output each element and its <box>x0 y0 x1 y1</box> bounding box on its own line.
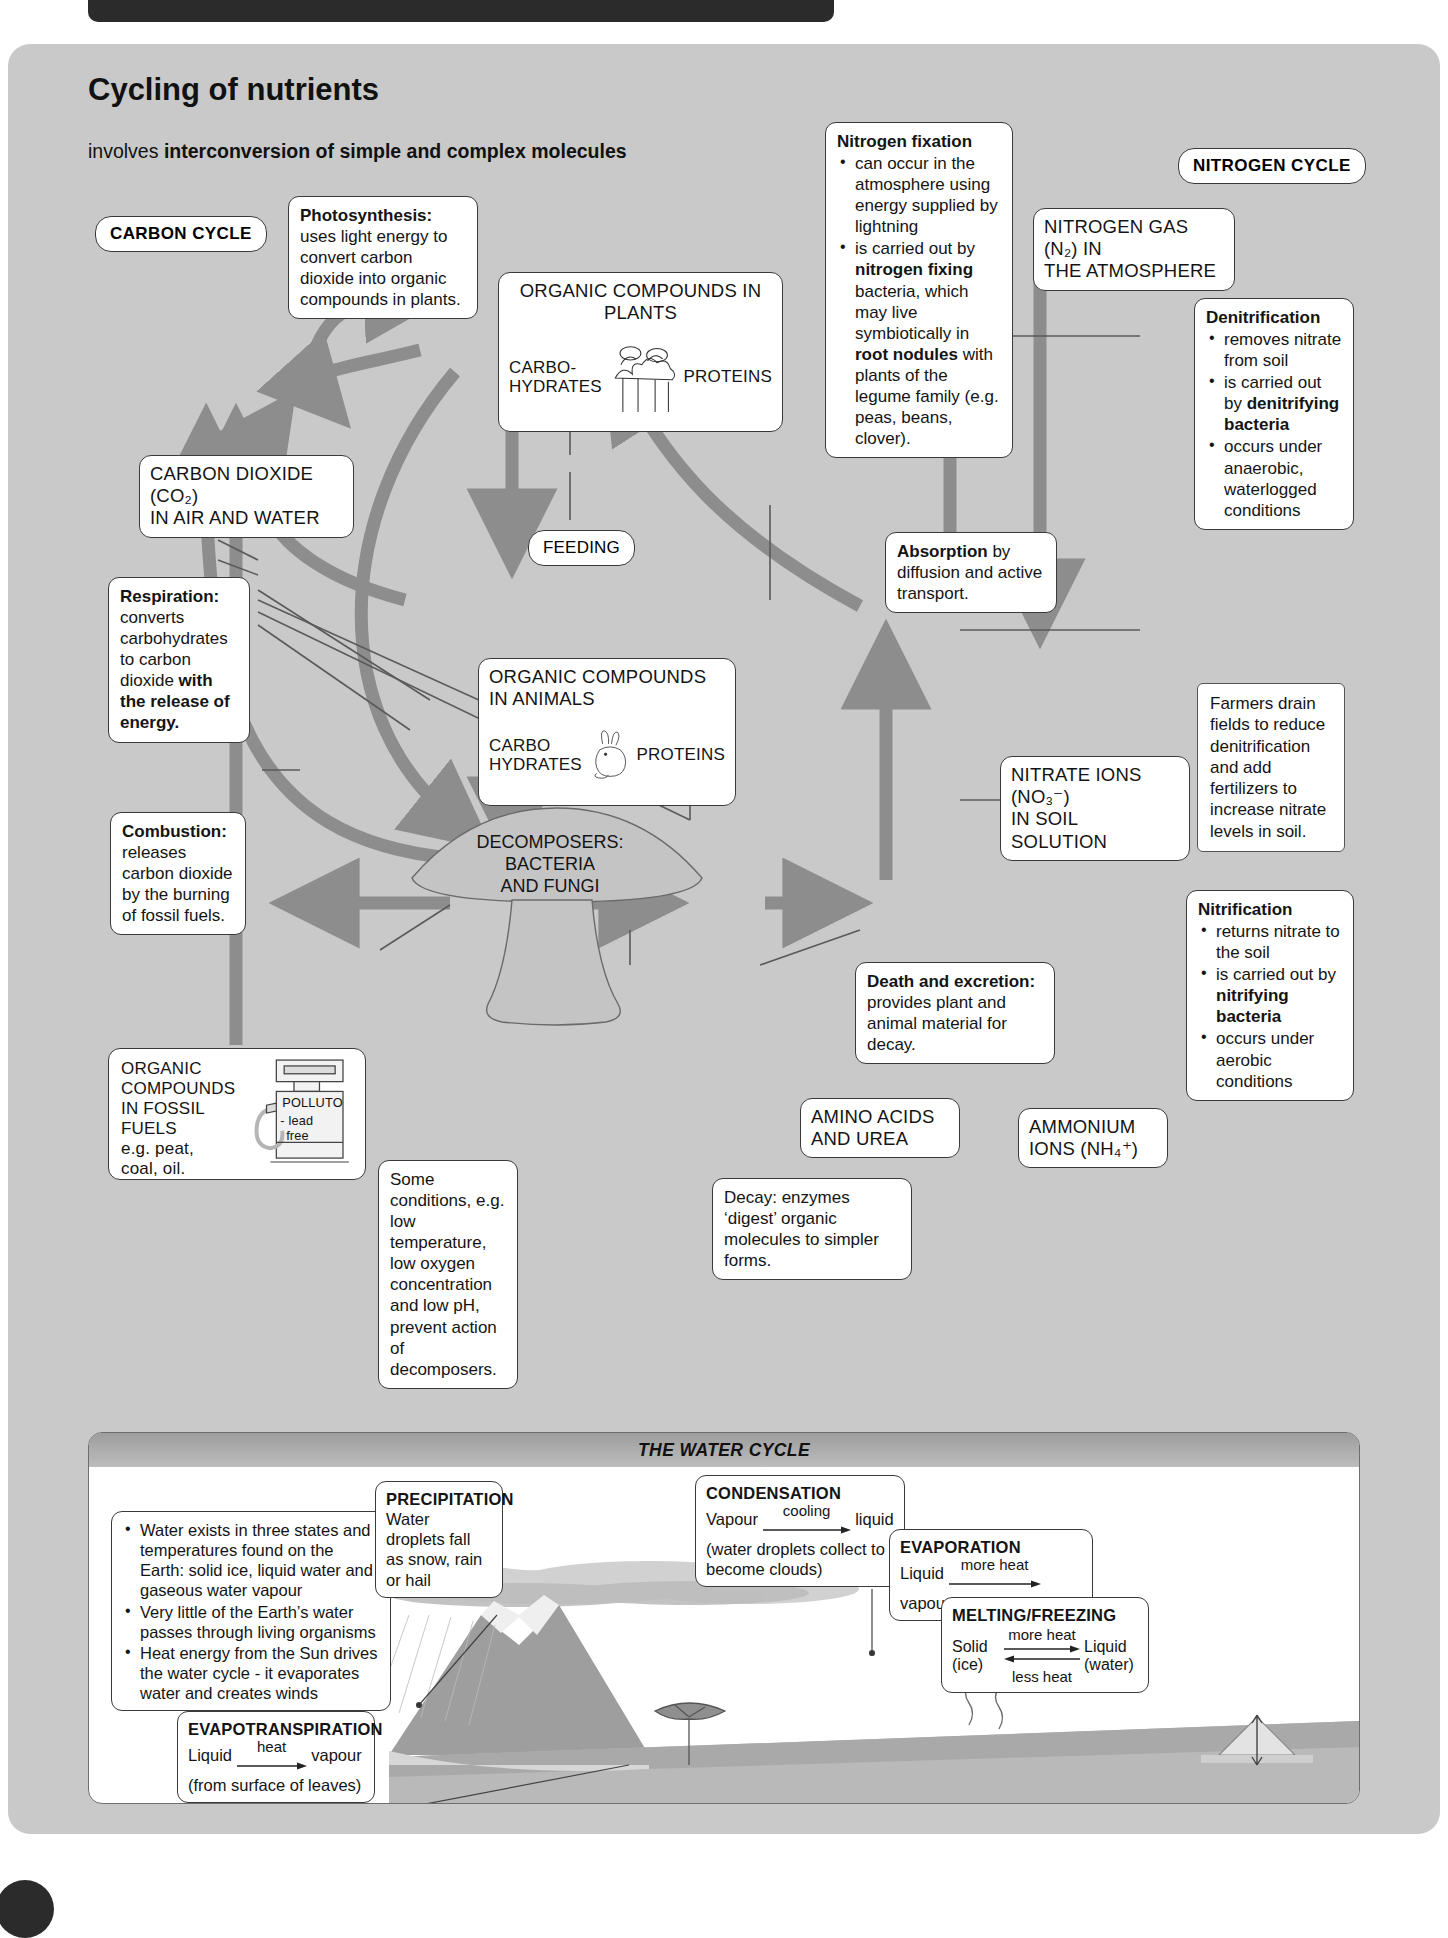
combustion-note: Combustion: releases carbon dioxide by t… <box>110 812 246 935</box>
list-item: removes nitrate from soil <box>1224 329 1342 371</box>
list-item: is carried out by nitrogen fixing bacter… <box>855 238 1001 449</box>
melting-arrows: more heat less heat <box>1004 1627 1080 1685</box>
plants-title: ORGANIC COMPOUNDS IN PLANTS <box>509 280 772 324</box>
cooling-arrow: cooling <box>763 1503 851 1539</box>
animals-carbohydrates-label: CARBOHYDRATES <box>489 736 582 775</box>
nitrification-note: Nitrification returns nitrate to the soi… <box>1186 890 1354 1101</box>
heat-arrow: heat <box>237 1739 307 1775</box>
plants-carbohydrates-label: CARBO-HYDRATES <box>509 358 602 397</box>
organic-compounds-animals-node: ORGANIC COMPOUNDSIN ANIMALS CARBOHYDRATE… <box>478 658 736 806</box>
co2-label: CARBON DIOXIDE (CO₂)IN AIR AND WATER <box>150 463 320 528</box>
animals-title: ORGANIC COMPOUNDSIN ANIMALS <box>489 666 725 710</box>
list-item: can occur in the atmosphere using energy… <box>855 153 1001 237</box>
plants-proteins-label: PROTEINS <box>683 367 772 387</box>
denitrification-bullets: removes nitrate from soil is carried out… <box>1206 329 1342 521</box>
carbon-dioxide-node: CARBON DIOXIDE (CO₂)IN AIR AND WATER <box>139 455 354 538</box>
pump-line2-text: free <box>286 1128 309 1143</box>
water-facts-note: Water exists in three states and tempera… <box>111 1511 391 1711</box>
nitrogen-fixation-note: Nitrogen fixation can occur in the atmos… <box>825 122 1013 458</box>
list-item: Water exists in three states and tempera… <box>140 1520 380 1601</box>
organic-compounds-plants-node: ORGANIC COMPOUNDS IN PLANTS CARBO-HYDRAT… <box>498 272 783 432</box>
nitrogen-cycle-label: NITROGEN CYCLE <box>1178 148 1366 184</box>
evapotranspiration-to: vapour <box>311 1746 361 1764</box>
rabbit-illustration-icon <box>582 718 637 792</box>
plant-illustration-icon <box>602 334 684 420</box>
list-item: Very little of the Earth’s water passes … <box>140 1602 380 1642</box>
nitrate-ions-node: NITRATE IONS (NO₃⁻)IN SOIL SOLUTION <box>1000 756 1190 861</box>
evapotranspiration-from: Liquid <box>188 1746 232 1764</box>
petrol-pump-icon: POLLUTO - lead free <box>243 1055 353 1171</box>
evaporation-from: Liquid <box>900 1564 944 1582</box>
animals-proteins-label: PROTEINS <box>636 745 725 765</box>
death-excretion-note: Death and excretion: provides plant and … <box>855 962 1055 1064</box>
ammonium-ions-node: AMMONIUMIONS (NH₄⁺) <box>1018 1108 1168 1168</box>
respiration-note: Respiration: converts carbohydrates to c… <box>108 577 250 743</box>
amino-acids-node: AMINO ACIDSAND UREA <box>800 1098 960 1158</box>
precipitation-note: PRECIPITATION Water droplets fall as sno… <box>375 1481 503 1598</box>
absorption-note: Absorption by diffusion and active trans… <box>885 532 1057 613</box>
list-item: is carried out by denitrifying bacteria <box>1224 372 1342 435</box>
condensation-from: Vapour <box>706 1510 758 1528</box>
melting-right-label: Liquid (water) <box>1084 1638 1136 1675</box>
melting-freezing-note: MELTING/FREEZING Solid (ice) more heat l… <box>941 1597 1149 1693</box>
list-item: returns nitrate to the soil <box>1216 921 1342 963</box>
farmers-drain-note: Farmers drain fields to reduce denitrifi… <box>1197 683 1345 852</box>
denitrification-note: Denitrification removes nitrate from soi… <box>1194 298 1354 530</box>
pump-line1-text: - lead <box>280 1113 313 1128</box>
evapotranspiration-body: (from surface of leaves) <box>188 1775 364 1795</box>
decomposer-conditions-note: Some conditions, e.g. low temperature, l… <box>378 1160 518 1389</box>
evapotranspiration-note: EVAPOTRANSPIRATION Liquid heat vapour (f… <box>177 1711 375 1803</box>
photosynthesis-note: Photosynthesis: uses light energy to con… <box>288 196 478 319</box>
decomposers-label: DECOMPOSERS:BACTERIAAND FUNGI <box>430 832 670 898</box>
melting-left-label: Solid (ice) <box>952 1638 1000 1675</box>
fossil-fuels-label: ORGANICCOMPOUNDSIN FOSSILFUELSe.g. peat,… <box>121 1059 235 1179</box>
list-item: occurs under anaerobic, waterlogged cond… <box>1224 436 1342 520</box>
water-cycle-banner: THE WATER CYCLE <box>89 1433 1359 1467</box>
list-item: is carried out by nitrifying bacteria <box>1216 964 1342 1027</box>
condensation-note: CONDENSATION Vapour cooling liquid (wate… <box>695 1475 905 1587</box>
condensation-to: liquid <box>855 1510 894 1528</box>
nitrogen-fixation-bullets: can occur in the atmosphere using energy… <box>837 153 1001 449</box>
amino-label: AMINO ACIDSAND UREA <box>811 1106 935 1149</box>
ammonium-label: AMMONIUMIONS (NH₄⁺) <box>1029 1116 1138 1159</box>
n2-label: NITROGEN GAS (N₂) INTHE ATMOSPHERE <box>1044 216 1216 281</box>
carbon-cycle-label: CARBON CYCLE <box>95 216 267 252</box>
water-facts-bullets: Water exists in three states and tempera… <box>122 1520 380 1703</box>
pump-brand-text: POLLUTO <box>282 1095 343 1110</box>
nitrogen-gas-node: NITROGEN GAS (N₂) INTHE ATMOSPHERE <box>1033 208 1235 291</box>
fossil-fuels-node: ORGANICCOMPOUNDSIN FOSSILFUELSe.g. peat,… <box>108 1048 366 1180</box>
list-item: Heat energy from the Sun drives the wate… <box>140 1643 380 1703</box>
feeding-label: FEEDING <box>528 530 635 566</box>
decay-note: Decay: enzymes ‘digest’ organic molecule… <box>712 1178 912 1280</box>
more-heat-arrow: more heat <box>949 1557 1041 1593</box>
nitrate-label: NITRATE IONS (NO₃⁻)IN SOIL SOLUTION <box>1011 764 1142 852</box>
nitrification-bullets: returns nitrate to the soil is carried o… <box>1198 921 1342 1092</box>
list-item: occurs under aerobic conditions <box>1216 1028 1342 1091</box>
water-cycle-panel: THE WATER CYCLE <box>88 1432 1360 1804</box>
condensation-body: (water droplets collect to become clouds… <box>706 1539 894 1579</box>
